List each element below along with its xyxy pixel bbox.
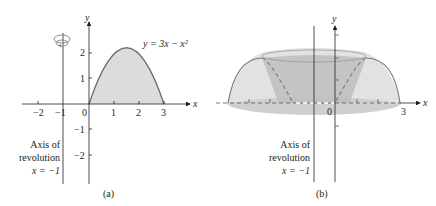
y-axis-label-b: y — [331, 13, 337, 24]
curve-equation-label: y = 3x − x² — [142, 38, 189, 49]
axis-note-line1-b: Axis of — [280, 139, 310, 150]
x-axis-label-b: x — [422, 97, 428, 108]
axis-note-line2: revolution — [19, 152, 60, 163]
x-tick-label: 2 — [136, 107, 141, 118]
y-tick-label: −1 — [74, 124, 85, 135]
axis-note-line3-b: x = −1 — [281, 165, 310, 176]
axis-note-line2-b: revolution — [269, 152, 310, 163]
caption-b: (b) — [316, 188, 328, 200]
axis-note-line1: Axis of — [30, 139, 60, 150]
x-tick-label: 3 — [161, 107, 166, 118]
x-axis-label: x — [192, 98, 198, 109]
rotation-arrow-icon — [54, 35, 70, 47]
axis-note-line3: x = −1 — [31, 165, 60, 176]
x-end-label-b: 3 — [401, 106, 406, 117]
y-tick-label: −2 — [74, 150, 85, 161]
panel-b: y x 0 3 Axis of revolution x = −1 (b) — [216, 13, 428, 200]
x-tick-label: −2 — [33, 107, 44, 118]
x-tick-label: 1 — [111, 107, 116, 118]
panel-a: −2 −1 0 1 2 3 1 2 −1 −2 x y y = 3x − x² … — [19, 12, 198, 200]
figure-canvas: −2 −1 0 1 2 3 1 2 −1 −2 x y y = 3x − x² … — [0, 0, 436, 206]
x-tick-label: −1 — [55, 107, 66, 118]
y-tick-label: 2 — [80, 47, 85, 58]
y-axis-label: y — [84, 12, 90, 23]
origin-label-b: 0 — [327, 106, 332, 117]
caption-a: (a) — [103, 188, 114, 200]
y-tick-label: 1 — [80, 73, 85, 84]
x-tick-label: 0 — [82, 107, 87, 118]
